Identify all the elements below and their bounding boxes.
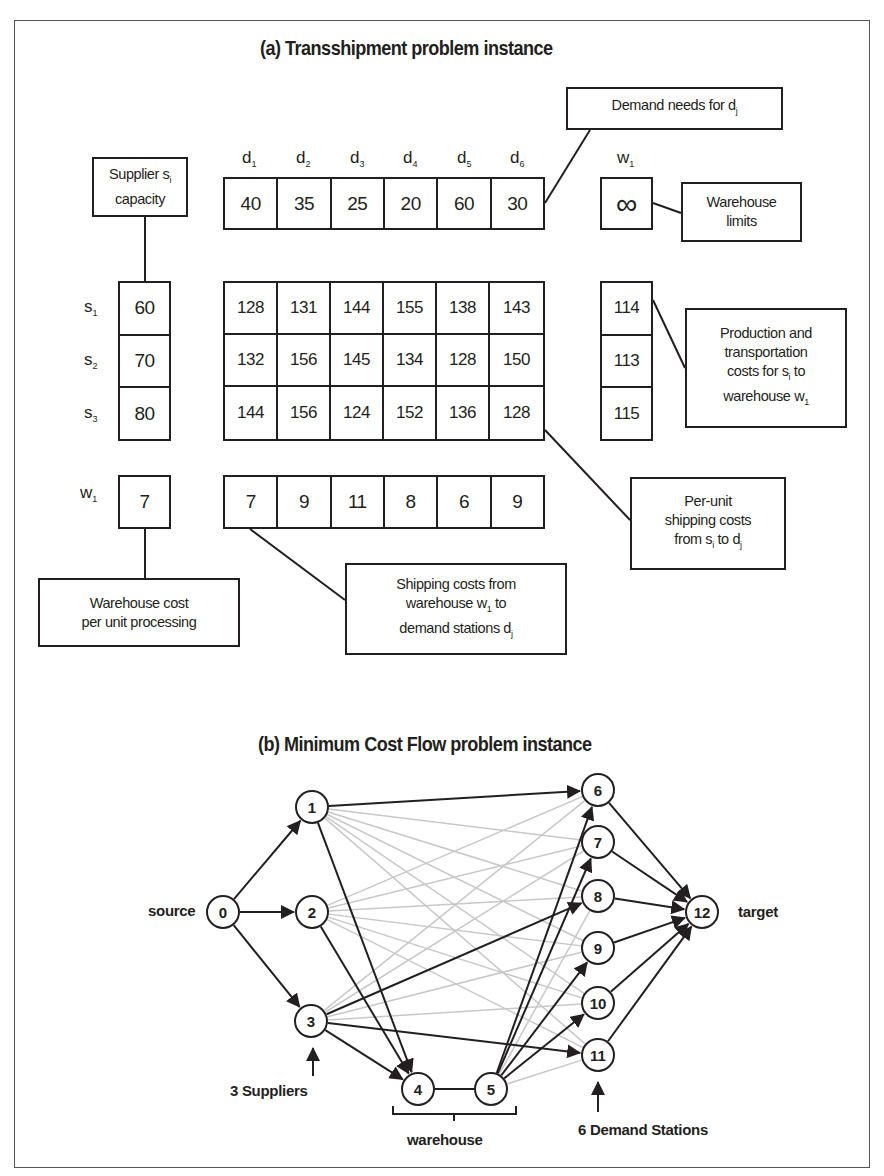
target-label: target [738, 903, 778, 920]
graph-node-10: 10 [581, 986, 615, 1020]
warehouse-label: warehouse [407, 1131, 483, 1148]
edge-8-12 [615, 899, 684, 910]
flow-network-edges [0, 0, 884, 1176]
edge-5-7 [498, 859, 591, 1074]
graph-node-9: 9 [581, 931, 615, 965]
graph-node-4: 4 [401, 1072, 435, 1106]
edge-0-1 [234, 821, 300, 899]
demand-stations-label: 6 Demand Stations [578, 1121, 708, 1138]
edge-0-3 [234, 925, 300, 1007]
graph-node-7: 7 [581, 825, 615, 859]
edge-7-12 [612, 851, 687, 901]
graph-node-5: 5 [474, 1072, 508, 1106]
graph-node-12: 12 [685, 895, 719, 929]
source-label: source [148, 902, 195, 919]
edge-3-8 [327, 903, 582, 1014]
graph-node-6: 6 [581, 773, 615, 807]
graph-node-0: 0 [206, 895, 240, 929]
graph-node-2: 2 [295, 895, 329, 929]
graph-node-1: 1 [295, 790, 329, 824]
edge-10-12 [611, 924, 689, 992]
graph-node-8: 8 [581, 879, 615, 913]
edge-5-6 [497, 807, 592, 1073]
edge-9-12 [614, 918, 685, 943]
edge-6-12 [609, 803, 690, 898]
graph-node-3: 3 [294, 1004, 328, 1038]
edge-5-9 [501, 962, 587, 1075]
edge-3-4 [325, 1030, 402, 1079]
edge-1-6 [329, 791, 580, 806]
suppliers-label: 3 Suppliers [230, 1082, 308, 1099]
graph-node-11: 11 [581, 1038, 615, 1072]
